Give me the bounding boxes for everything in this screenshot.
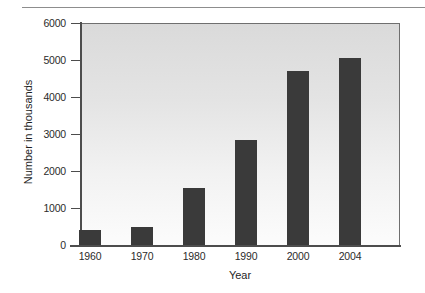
- y-tick-label-4000: 4000: [6, 91, 66, 103]
- bar-1980: [183, 188, 205, 245]
- y-tick-label-3000: 3000: [6, 128, 66, 140]
- bar-2000: [287, 71, 309, 245]
- x-axis-title: Year: [80, 269, 400, 281]
- x-tick-label-1980: 1980: [168, 250, 220, 262]
- y-tick-label-1000: 1000: [6, 202, 66, 214]
- y-axis-tick: [71, 245, 80, 246]
- y-tick-label-0: 0: [6, 239, 66, 251]
- y-axis-tick: [71, 134, 80, 135]
- x-tick-label-2004: 2004: [324, 250, 376, 262]
- x-tick-label-2000: 2000: [272, 250, 324, 262]
- y-axis-tick: [71, 171, 80, 172]
- bar-1990: [235, 140, 257, 245]
- x-tick-label-1990: 1990: [220, 250, 272, 262]
- y-axis-tick: [71, 60, 80, 61]
- x-tick-label-1970: 1970: [116, 250, 168, 262]
- bar-1960: [79, 230, 101, 245]
- y-axis-tick: [71, 23, 80, 24]
- x-tick-label-1960: 1960: [64, 250, 116, 262]
- y-tick-label-6000: 6000: [6, 17, 66, 29]
- y-axis-line: [80, 22, 82, 246]
- y-tick-label-5000: 5000: [6, 54, 66, 66]
- x-axis-line: [70, 245, 401, 247]
- y-axis-tick: [71, 208, 80, 209]
- bar-1970: [131, 227, 153, 245]
- y-tick-label-2000: 2000: [6, 165, 66, 177]
- y-axis-tick: [71, 97, 80, 98]
- bar-chart-figure: 0 1000 2000 3000 4000 5000 6000 1960 197…: [0, 0, 425, 293]
- bar-2004: [339, 58, 361, 245]
- top-divider-rule: [22, 7, 425, 8]
- y-axis-title: Number in thousands: [22, 42, 34, 222]
